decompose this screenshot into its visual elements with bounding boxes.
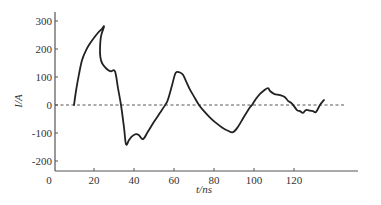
y-tick-label: 300 — [36, 15, 53, 27]
x-tick-label: 0 — [46, 174, 52, 186]
x-tick-label: 100 — [246, 174, 263, 186]
y-tick-label: -200 — [32, 155, 53, 167]
x-axis-title: t/ns — [196, 183, 212, 195]
y-tick-label: -100 — [32, 127, 53, 139]
y-tick-label: 100 — [36, 71, 53, 83]
chart: -200-1000100200300 020406080100120 I/A t… — [0, 0, 381, 205]
y-tick-label: 0 — [47, 99, 53, 111]
series-group — [74, 26, 324, 145]
y-tick-label: 200 — [36, 43, 53, 55]
series-line-i — [74, 26, 324, 145]
x-tick-label: 20 — [89, 174, 101, 186]
x-tick-label: 60 — [169, 174, 181, 186]
x-tick-label: 120 — [286, 174, 303, 186]
y-axis-title: I/A — [12, 94, 24, 109]
y-ticks: -200-1000100200300 — [32, 15, 58, 167]
x-tick-label: 40 — [129, 174, 141, 186]
